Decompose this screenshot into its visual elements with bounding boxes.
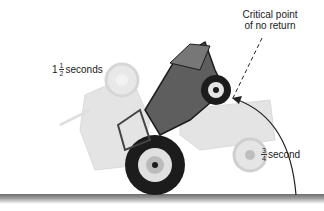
fraction: 3 4	[261, 147, 267, 162]
critical-point-label: Critical point of no return	[232, 9, 308, 31]
numerator: 1	[59, 62, 65, 70]
unit: seconds	[65, 64, 102, 75]
time-label-0-75-second: 3 4 second	[260, 147, 300, 162]
critical-point-line1: Critical point	[232, 9, 308, 20]
ground	[0, 194, 324, 204]
critical-point-line2: of no return	[232, 20, 308, 31]
numerator: 3	[261, 147, 267, 155]
fraction: 1 2	[59, 62, 65, 77]
denominator: 4	[262, 155, 266, 162]
unit: second	[268, 149, 300, 160]
denominator: 2	[60, 70, 64, 77]
whole-number: 1	[52, 64, 58, 75]
time-label-1-5-seconds: 1 1 2 seconds	[52, 62, 103, 77]
critical-point-pointer	[232, 38, 262, 100]
tractor-rollover-illustration	[0, 0, 324, 211]
